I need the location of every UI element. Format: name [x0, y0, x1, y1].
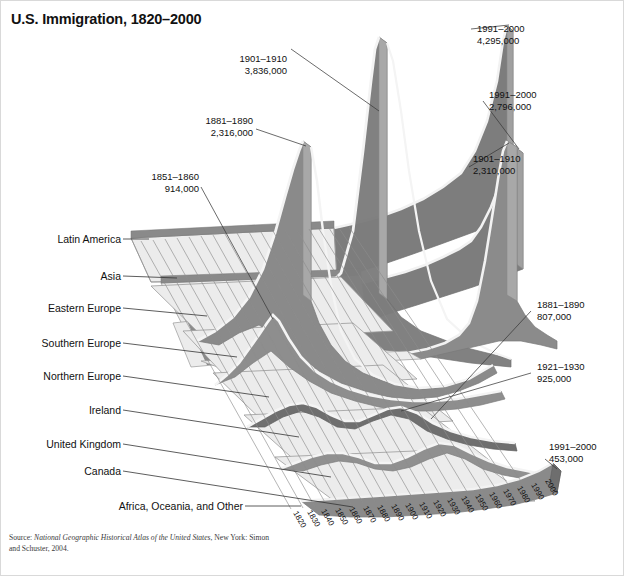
- annot-1881-1890-2316000: 1881–1890 2,316,000: [157, 115, 253, 139]
- category-label-asia: Asia: [1, 270, 121, 282]
- immigration-ridgeline-chart: 1820 1830 1840 1850 1860 1870 1880 1890 …: [1, 1, 623, 575]
- annot-1851-1860-914000: 1851–1860 914,000: [103, 171, 199, 195]
- source-title: National Geographic Historical Atlas of …: [34, 533, 210, 542]
- annot-1901-1910-3836000: 1901–1910 3,836,000: [191, 53, 287, 77]
- source-prefix: Source:: [9, 533, 34, 542]
- category-label-northern-europe: Northern Europe: [1, 370, 121, 382]
- annot-1901-1910-2310000: 1901–1910 2,310,000: [473, 153, 521, 177]
- category-label-eastern-europe: Eastern Europe: [1, 302, 121, 314]
- annot-1991-2000-4295000: 1991–2000 4,295,000: [477, 23, 525, 47]
- category-label-ireland: Ireland: [1, 404, 121, 416]
- source-note: Source: National Geographic Historical A…: [9, 533, 269, 554]
- ribbon-latin-america: [131, 25, 513, 282]
- annot-1991-2000-453000: 1991–2000 453,000: [549, 441, 597, 465]
- annot-1921-1930-925000: 1921–1930 925,000: [537, 361, 585, 385]
- category-label-latin-america: Latin America: [1, 233, 121, 245]
- category-label-africa-oceania-other: Africa, Oceania, and Other: [1, 500, 243, 512]
- category-label-canada: Canada: [1, 465, 121, 477]
- category-label-southern-europe: Southern Europe: [1, 337, 121, 349]
- annot-1881-1890-807000: 1881–1890 807,000: [537, 299, 585, 323]
- chart-canvas: U.S. Immigration, 1820–2000: [1, 1, 623, 575]
- category-label-united-kingdom: United Kingdom: [1, 438, 121, 450]
- annot-1991-2000-2796000: 1991–2000 2,796,000: [489, 89, 537, 113]
